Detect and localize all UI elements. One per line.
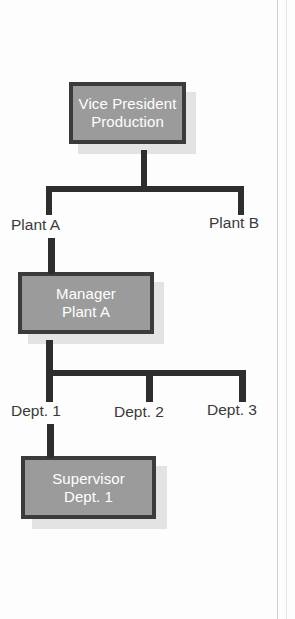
node-vice-president-production[interactable]: Vice President Production [69, 82, 186, 144]
branch-label-dept-2: Dept. 2 [114, 403, 164, 421]
connector-dept-2-drop [146, 370, 153, 402]
node-vp-line-1: Vice President [79, 95, 177, 113]
connector-dept-3-drop [239, 370, 246, 402]
node-supervisor-line-2: Dept. 1 [64, 488, 113, 506]
node-supervisor-line-1: Supervisor [52, 470, 125, 488]
connector-plant-a-to-manager [48, 238, 55, 274]
connector-vp-stem [141, 150, 147, 190]
node-manager-line-1: Manager [56, 285, 116, 303]
connector-plant-b-drop [238, 186, 244, 215]
node-vp-line-2: Production [91, 113, 164, 131]
node-supervisor-dept-1[interactable]: Supervisor Dept. 1 [21, 456, 156, 519]
page-edge-line-outer [286, 0, 287, 619]
connector-dept-1-drop [46, 370, 53, 402]
org-chart-page: Vice President Production Plant A Plant … [0, 0, 295, 619]
branch-label-dept-1: Dept. 1 [11, 402, 61, 420]
branch-label-dept-3: Dept. 3 [207, 401, 257, 419]
connector-plant-bar [46, 186, 244, 192]
connector-plant-a-drop [46, 186, 52, 215]
node-manager-plant-a[interactable]: Manager Plant A [18, 272, 154, 334]
connector-dept-1-to-supervisor [47, 424, 54, 458]
branch-label-plant-b: Plant B [209, 214, 259, 232]
branch-label-plant-a: Plant A [11, 216, 60, 234]
node-manager-line-2: Plant A [62, 303, 110, 321]
page-edge-line [277, 0, 278, 619]
